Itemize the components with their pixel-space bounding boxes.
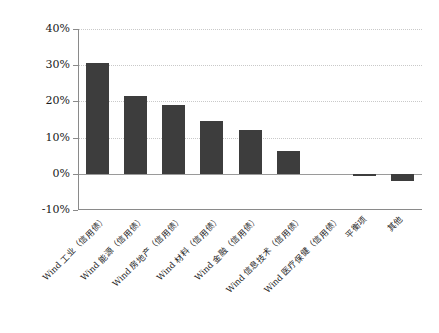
bar-4[interactable]	[239, 130, 262, 173]
x-label-4[interactable]: Wind 金融（信用债）	[182, 214, 261, 293]
bar-7[interactable]	[353, 174, 376, 176]
bar-8[interactable]	[391, 174, 414, 181]
x-label-8[interactable]: 其他	[373, 214, 406, 247]
y-tick-label: 10%	[0, 132, 70, 144]
x-label-2[interactable]: Wind 房地产（信用债）	[106, 214, 185, 293]
x-label-6[interactable]: Wind 医疗保健（信用债）	[255, 214, 343, 302]
x-label-1[interactable]: Wind 能源（信用债）	[68, 214, 147, 293]
y-tick-label: -10%	[0, 204, 70, 216]
x-label-0[interactable]: Wind 工业（信用债）	[30, 214, 109, 293]
y-tick-label: 40%	[0, 23, 70, 35]
bar-0[interactable]	[86, 63, 109, 173]
bar-2[interactable]	[162, 105, 185, 174]
x-label-3[interactable]: Wind 材料（信用债）	[144, 214, 223, 293]
bars-group	[78, 29, 422, 210]
bar-chart: 40% 30% 20% 10% 0% -10% Wind 工业（信用债） Win…	[0, 0, 439, 333]
y-axis-tick	[73, 210, 78, 211]
bar-3[interactable]	[200, 121, 223, 173]
y-tick-label: 0%	[0, 168, 70, 180]
bar-1[interactable]	[124, 96, 147, 173]
bar-5[interactable]	[277, 151, 300, 173]
y-tick-label: 30%	[0, 59, 70, 71]
y-tick-label: 20%	[0, 95, 70, 107]
